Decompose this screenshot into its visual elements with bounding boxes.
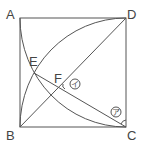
segment-ec: [34, 73, 126, 127]
label-e: E: [29, 54, 38, 69]
label-b: B: [6, 128, 15, 143]
angle-a-arc: [121, 120, 126, 124]
diagonal-bd: [20, 18, 126, 127]
label-a: A: [6, 7, 15, 22]
angle-a-label: ア: [112, 108, 120, 117]
geometry-figure: A D B C E F イ ア: [0, 0, 144, 144]
angle-i-arc: [63, 84, 65, 89]
label-f: F: [54, 71, 62, 86]
label-d: D: [127, 7, 136, 22]
angle-i-label: イ: [71, 80, 79, 89]
label-c: C: [127, 128, 136, 143]
